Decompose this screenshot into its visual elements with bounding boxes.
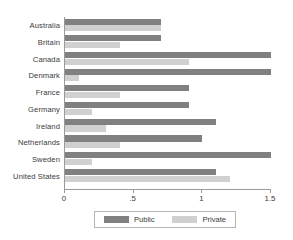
x-axis-tick-mark [64, 189, 65, 193]
x-axis-line [64, 189, 271, 190]
category-label: Sweden [32, 154, 60, 163]
bar-public [65, 19, 161, 25]
bar-private [65, 42, 120, 48]
category-label: United States [13, 171, 60, 180]
x-axis-tick-label: .5 [129, 194, 136, 203]
bar-group-row: France [0, 84, 293, 101]
bar-group-row: Britain [0, 34, 293, 51]
bar-private [65, 159, 92, 165]
bar-public [65, 119, 216, 125]
bar-private [65, 75, 79, 81]
legend-entry[interactable]: Public [104, 215, 155, 224]
chart-legend: PublicPrivate [94, 211, 236, 228]
bar-group-row: Netherlands [0, 134, 293, 151]
bar-private [65, 109, 92, 115]
category-label: Germany [28, 104, 60, 113]
bar-public [65, 152, 271, 158]
bar-public [65, 102, 189, 108]
bar-public [65, 52, 271, 58]
legend-entry[interactable]: Private [172, 215, 226, 224]
bar-group-row: Germany [0, 101, 293, 118]
legend-swatch-public [104, 216, 129, 223]
bar-group-row: Denmark [0, 67, 293, 84]
bar-public [65, 135, 202, 141]
bar-public [65, 35, 161, 41]
legend-label: Public [134, 215, 155, 224]
bar-private [65, 125, 106, 131]
bar-private [65, 142, 120, 148]
bar-group-row: Ireland [0, 117, 293, 134]
bar-group-row: Sweden [0, 151, 293, 168]
bar-group-row: United States [0, 167, 293, 184]
bar-private [65, 59, 189, 65]
category-label: Netherlands [18, 138, 60, 147]
bar-public [65, 169, 216, 175]
bar-public [65, 85, 189, 91]
legend-swatch-private [172, 216, 197, 223]
x-axis-tick-mark [270, 189, 271, 193]
x-axis-tick-label: 1.5 [265, 194, 276, 203]
bar-private [65, 25, 161, 31]
category-label: Australia [30, 21, 60, 30]
x-axis-tick-label: 0 [62, 194, 66, 203]
category-label: Britain [38, 38, 60, 47]
bar-group-row: Australia [0, 17, 293, 34]
bar-private [65, 92, 120, 98]
category-label: Ireland [36, 121, 60, 130]
legend-label: Private [202, 215, 226, 224]
x-axis-tick-mark [133, 189, 134, 193]
category-label: Denmark [28, 71, 60, 80]
category-label: France [36, 88, 60, 97]
bar-group-row: Canada [0, 50, 293, 67]
bar-public [65, 69, 271, 75]
category-label: Canada [33, 54, 60, 63]
bar-chart: AustraliaBritainCanadaDenmarkFranceGerma… [0, 0, 293, 240]
bar-private [65, 176, 230, 182]
x-axis-tick-mark [201, 189, 202, 193]
x-axis-tick-label: 1 [199, 194, 203, 203]
